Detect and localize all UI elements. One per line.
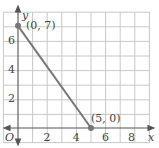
y-tick-4: 4 [8, 63, 15, 76]
x-tick-8: 8 [128, 131, 135, 144]
coordinate-chart: y (0, 7) (5, 0) 6 4 2 O 2 4 6 8 x [0, 0, 159, 148]
x-tick-6: 6 [102, 131, 109, 144]
x-tick-4: 4 [73, 131, 80, 144]
x-axis-arrow-left-icon [4, 126, 10, 131]
origin-label: O [5, 131, 14, 144]
x-axis-label: x [148, 131, 155, 144]
point-a-marker [15, 23, 21, 29]
point-b-marker [88, 125, 94, 131]
y-axis-arrow-up-icon [16, 6, 21, 12]
x-tick-2: 2 [44, 131, 51, 144]
y-axis-arrow-down-icon [16, 139, 21, 145]
point-b-label: (5, 0) [91, 112, 121, 125]
y-tick-6: 6 [8, 34, 15, 47]
point-a-label: (0, 7) [26, 19, 56, 32]
y-tick-2: 2 [8, 92, 15, 105]
x-axis-arrow-right-icon [148, 126, 154, 131]
